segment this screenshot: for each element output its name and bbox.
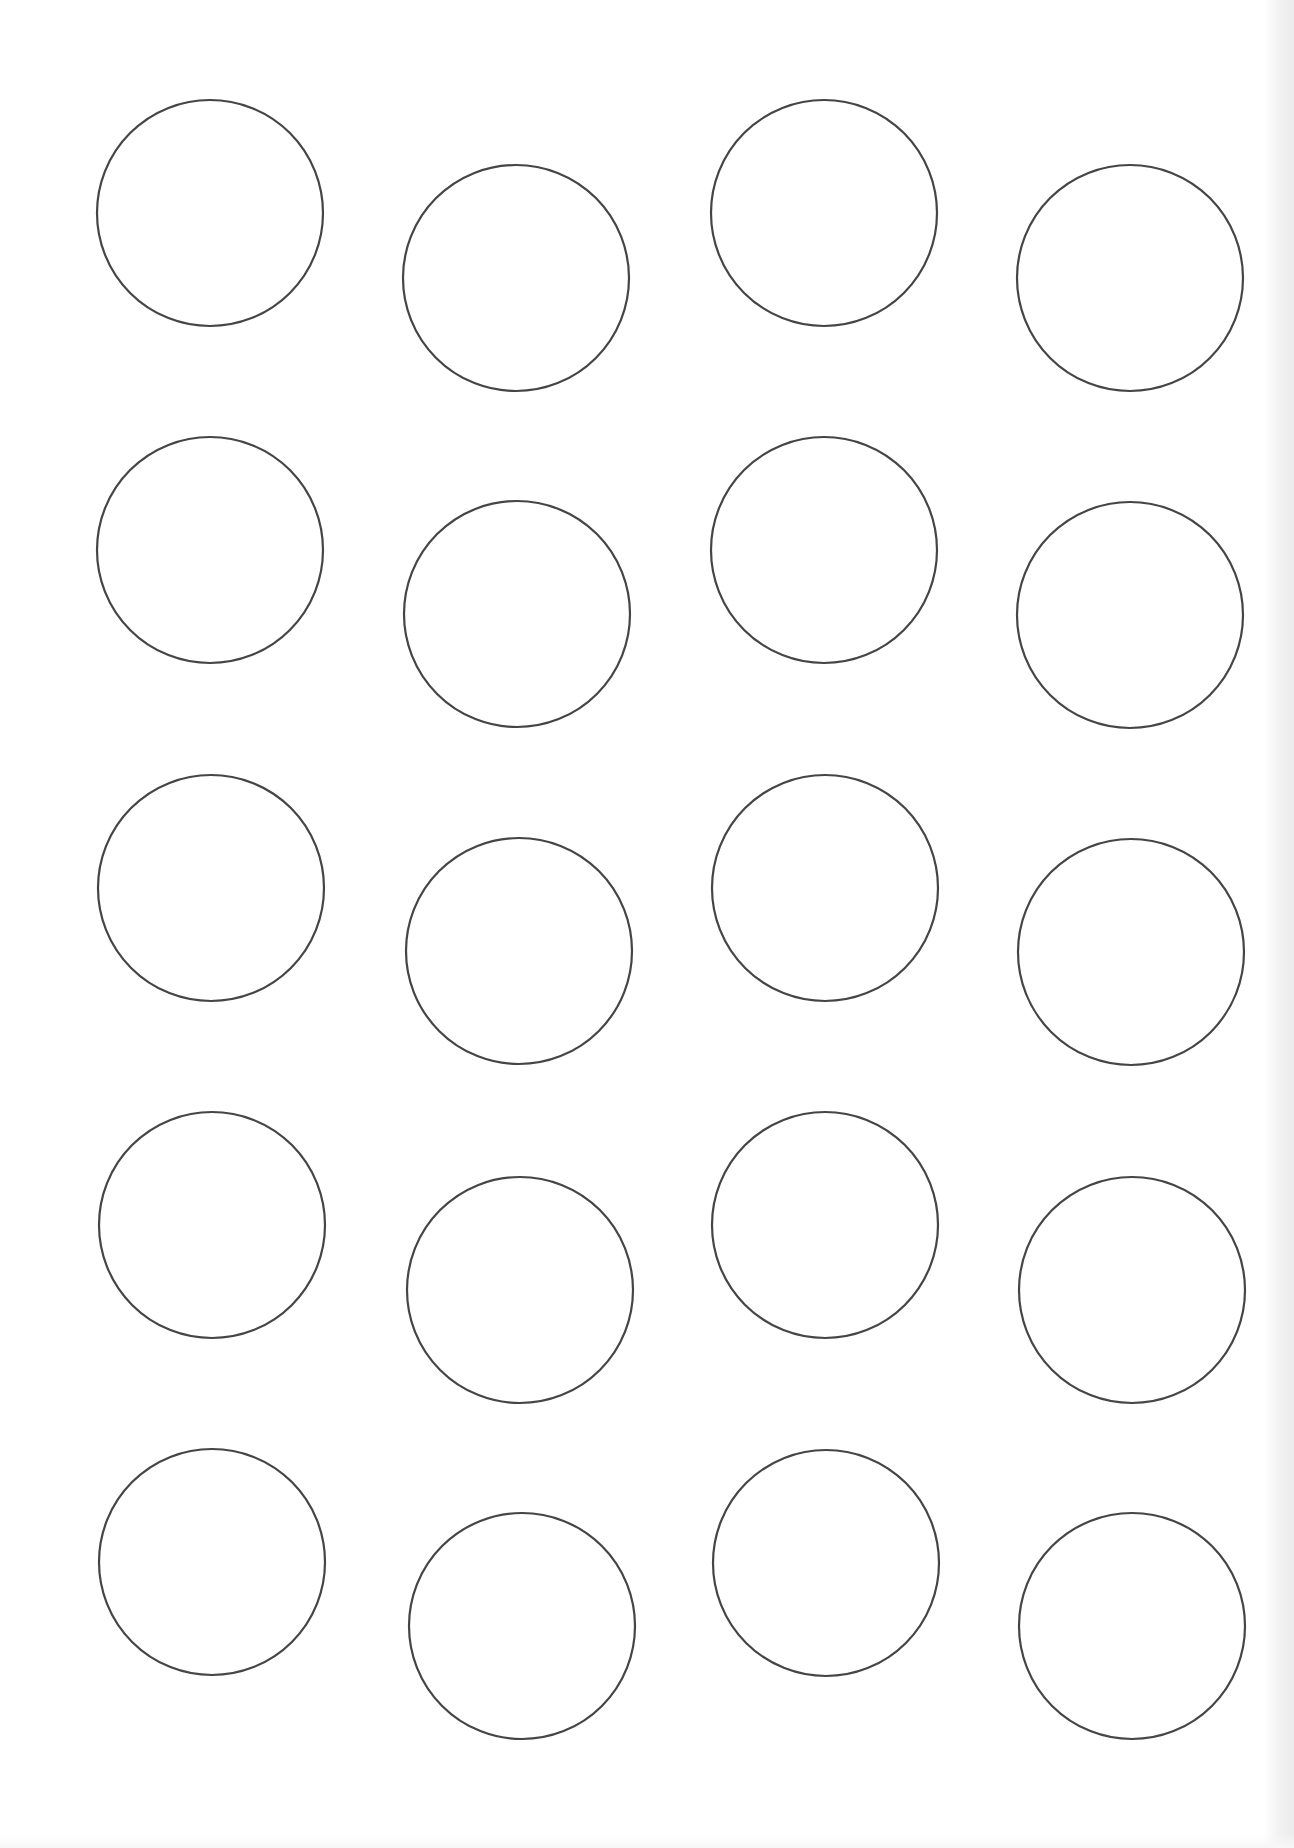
circle-label-r3-c4 bbox=[1018, 839, 1244, 1065]
circle-label-r4-c4 bbox=[1019, 1177, 1245, 1403]
circle-label-r5-c1 bbox=[99, 1449, 325, 1675]
circle-label-r1-c2 bbox=[403, 165, 629, 391]
circle-label-grid bbox=[0, 0, 1294, 1848]
circle-label-r2-c4 bbox=[1017, 502, 1243, 728]
circle-label-r3-c3 bbox=[712, 775, 938, 1001]
circle-label-r1-c3 bbox=[711, 100, 937, 326]
circle-label-r1-c1 bbox=[97, 100, 323, 326]
circle-label-r1-c4 bbox=[1017, 165, 1243, 391]
page-edge-shadow bbox=[1264, 0, 1294, 1848]
circle-label-r2-c3 bbox=[711, 437, 937, 663]
circle-label-r2-c2 bbox=[404, 501, 630, 727]
circle-label-r3-c1 bbox=[98, 775, 324, 1001]
circle-label-r4-c2 bbox=[407, 1177, 633, 1403]
label-sheet-page bbox=[0, 0, 1294, 1848]
circle-label-r5-c2 bbox=[409, 1513, 635, 1739]
circle-label-r5-c3 bbox=[713, 1450, 939, 1676]
circle-label-r5-c4 bbox=[1019, 1513, 1245, 1739]
page-bottom-edge bbox=[0, 1834, 1294, 1848]
circle-label-r4-c3 bbox=[712, 1112, 938, 1338]
circle-label-r4-c1 bbox=[99, 1112, 325, 1338]
circle-label-r2-c1 bbox=[97, 437, 323, 663]
circle-label-r3-c2 bbox=[406, 838, 632, 1064]
